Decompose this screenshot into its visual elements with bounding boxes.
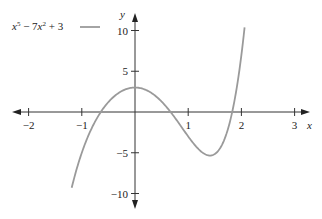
y-tick-label: 10 [117, 25, 129, 37]
y-axis-down-arrow-icon [132, 200, 138, 209]
x-tick-label: −2 [23, 119, 35, 131]
legend: x5 − 7x2 + 3 [11, 20, 100, 32]
x-tick-label: −1 [76, 119, 88, 131]
x-axis-right-arrow-icon [301, 109, 310, 115]
x-tick-label: 2 [239, 119, 245, 131]
y-tick-label: 5 [123, 65, 129, 77]
series-curve [72, 27, 245, 187]
y-tick-label: −10 [111, 188, 129, 200]
x-tick-label: 3 [292, 119, 298, 131]
x-ticks: −2−1123 [23, 108, 298, 131]
function-plot: −2−1123 105−5−10 x y x5 − 7x2 + 3 [0, 0, 322, 219]
axes [12, 13, 310, 209]
x-axis-left-arrow-icon [12, 109, 21, 115]
x-tick-label: 1 [185, 119, 191, 131]
legend-label: x5 − 7x2 + 3 [11, 20, 64, 32]
y-axis-label: y [119, 8, 125, 20]
x-axis-label: x [306, 119, 312, 131]
y-tick-label: −5 [116, 147, 128, 159]
y-axis-up-arrow-icon [132, 13, 138, 22]
